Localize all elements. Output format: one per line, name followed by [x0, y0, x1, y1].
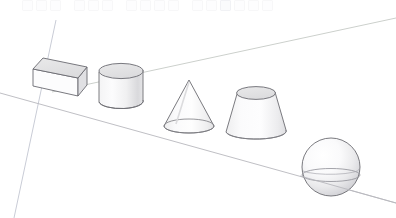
- solid-sphere[interactable]: [302, 138, 360, 196]
- toolbar[interactable]: [0, 0, 396, 11]
- solid-cylinder[interactable]: [99, 63, 143, 108]
- cone-side: [164, 80, 214, 133]
- tool-paint-button[interactable]: [206, 0, 217, 11]
- modeling-window: [0, 0, 396, 218]
- tool-orbit-button[interactable]: [220, 0, 231, 11]
- viewport-canvas[interactable]: [0, 0, 396, 218]
- toolbar-separator: [64, 5, 71, 6]
- frustum-top-face: [237, 87, 276, 100]
- tool-arc-button[interactable]: [74, 0, 85, 11]
- tool-eraser-button[interactable]: [36, 0, 47, 11]
- sphere-body: [302, 138, 360, 196]
- tool-move-button[interactable]: [140, 0, 151, 11]
- toolbar-separator: [182, 5, 189, 6]
- tool-pushpull-button[interactable]: [126, 0, 137, 11]
- tool-circle-button[interactable]: [102, 0, 113, 11]
- tool-rotate-button[interactable]: [154, 0, 165, 11]
- tool-zoom-extents-button[interactable]: [262, 0, 273, 11]
- tool-zoom-button[interactable]: [248, 0, 259, 11]
- tool-pan-button[interactable]: [234, 0, 245, 11]
- toolbar-separator: [116, 5, 123, 6]
- cylinder-top-face: [99, 63, 143, 78]
- tool-line-button[interactable]: [50, 0, 61, 11]
- axis-blue-vertical-line: [14, 20, 56, 218]
- solid-cone[interactable]: [164, 80, 214, 133]
- tool-tape-button[interactable]: [192, 0, 203, 11]
- tool-select-button[interactable]: [22, 0, 33, 11]
- tool-scale-button[interactable]: [168, 0, 179, 11]
- solid-frustum[interactable]: [226, 87, 286, 139]
- tool-rectangle-button[interactable]: [88, 0, 99, 11]
